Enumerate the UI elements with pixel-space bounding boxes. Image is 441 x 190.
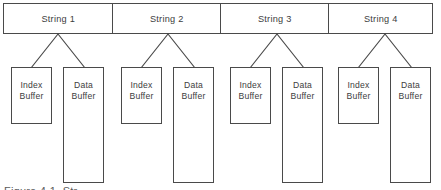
connector-1-index bbox=[31, 34, 58, 68]
string-cell-2: String 2 bbox=[113, 4, 221, 33]
data-buffer-4: Data Buffer bbox=[390, 67, 431, 183]
connector-3-index bbox=[250, 34, 277, 68]
index-buffer-4-label: Index Buffer bbox=[347, 80, 371, 102]
data-buffer-2: Data Buffer bbox=[173, 67, 214, 183]
index-buffer-1-label: Index Buffer bbox=[20, 80, 44, 102]
index-buffer-3: Index Buffer bbox=[230, 67, 271, 124]
index-buffer-2-label: Index Buffer bbox=[130, 80, 154, 102]
index-buffer-2: Index Buffer bbox=[121, 67, 162, 124]
block-diagram: String 1 String 2 String 3 String 4 bbox=[0, 0, 441, 190]
index-buffer-1: Index Buffer bbox=[11, 67, 52, 124]
string-label-4: String 4 bbox=[364, 14, 398, 24]
connector-3-data bbox=[277, 34, 304, 68]
connector-2-index bbox=[141, 34, 168, 68]
data-buffer-2-label: Data Buffer bbox=[182, 80, 206, 102]
string-cell-1: String 1 bbox=[4, 4, 113, 33]
string-label-2: String 2 bbox=[150, 14, 184, 24]
connector-4-index bbox=[358, 34, 385, 68]
string-label-1: String 1 bbox=[41, 14, 75, 24]
connector-2-data bbox=[168, 34, 195, 68]
string-cell-3: String 3 bbox=[221, 4, 330, 33]
string-label-3: String 3 bbox=[258, 14, 292, 24]
data-buffer-1: Data Buffer bbox=[63, 67, 104, 183]
index-buffer-3-label: Index Buffer bbox=[239, 80, 263, 102]
data-buffer-3-label: Data Buffer bbox=[291, 80, 315, 102]
figure-caption: Figure 4-1. Str bbox=[4, 185, 77, 190]
index-buffer-4: Index Buffer bbox=[338, 67, 379, 124]
string-bar: String 1 String 2 String 3 String 4 bbox=[3, 3, 433, 34]
data-buffer-4-label: Data Buffer bbox=[399, 80, 423, 102]
string-cell-4: String 4 bbox=[329, 4, 432, 33]
connector-4-data bbox=[385, 34, 412, 68]
data-buffer-3: Data Buffer bbox=[282, 67, 323, 183]
data-buffer-1-label: Data Buffer bbox=[72, 80, 96, 102]
connector-1-data bbox=[58, 34, 85, 68]
